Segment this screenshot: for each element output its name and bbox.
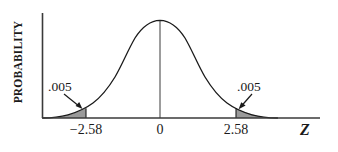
x-tick-label-center: 0 — [148, 123, 172, 137]
x-tick-label-positive-critical: 2.58 — [216, 123, 256, 137]
left-tail-callout-arrow — [64, 94, 83, 109]
normal-distribution-figure: PROBABILITY .005 .005 −2.58 0 2.58 Z — [0, 0, 338, 152]
y-axis-label: PROBABILITY — [13, 14, 27, 110]
left-tail-probability-label: .005 — [48, 80, 72, 94]
right-tail-callout-arrow — [239, 94, 252, 109]
x-axis-label: Z — [300, 122, 310, 138]
x-tick-label-negative-critical: −2.58 — [62, 123, 110, 137]
left-tail-shaded-region — [43, 108, 87, 118]
right-tail-probability-label: .005 — [237, 80, 261, 94]
